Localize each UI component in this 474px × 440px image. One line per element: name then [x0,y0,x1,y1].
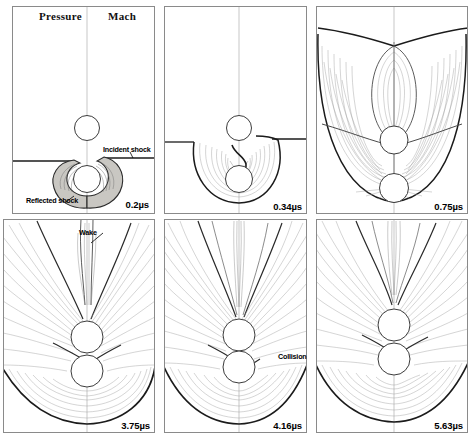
timestamp-panel-2: 0.34µs [273,201,302,212]
panel-3-contours [316,6,468,214]
panel-5: 4.16µs [164,219,307,433]
panel-2-contours [164,6,307,214]
figure-root: Pressure Mach Incident shock Reflected s… [0,0,474,440]
timestamp-panel-3: 0.75µs [434,201,463,212]
panel-5-contours [164,219,307,433]
panel-6: 5.63µs [316,219,468,433]
panel-6-contours [316,219,468,433]
timestamp-panel-1: 0.2µs [12,6,155,214]
annotation-collision: Collision [278,352,307,361]
annotation-wake: Wake [79,228,97,237]
panel-4-contours [3,219,155,433]
timestamp-panel-5: 4.16µs [273,420,302,431]
panel-4: 3.75µs [3,219,155,433]
timestamp-panel-6: 5.63µs [434,420,463,431]
timestamp-panel-4: 3.75µs [121,420,150,431]
panel-3: 0.75µs [316,6,468,214]
panel-2: 0.34µs [164,6,307,214]
